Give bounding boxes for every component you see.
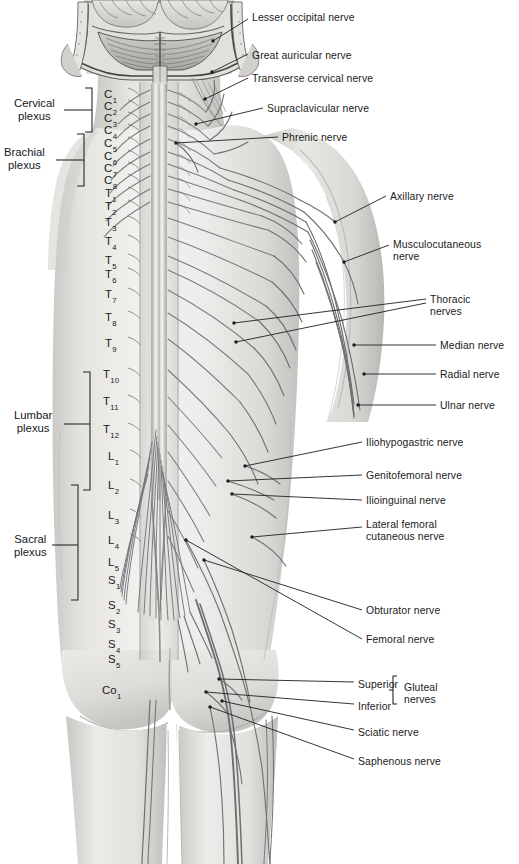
label-obturator: Obturator nerve [366,605,440,617]
phrenic-leader-dot [174,141,177,144]
label-iliohypogastric: Iliohypogastric nerve [366,437,463,449]
ulnar-leader-dot [356,403,359,406]
vertebra-label-S4: S4 [108,638,120,650]
label-radial: Radial nerve [440,369,500,381]
vertebra-label-L5: L5 [108,556,119,568]
vertebra-label-T11: T11 [103,395,118,407]
vertebra-label-S5: S5 [108,653,120,665]
axillary-leader-dot [333,220,336,223]
plexus-label-sacral: Sacral plexus [14,533,47,560]
label-sciatic: Sciatic nerve [358,727,419,739]
plexus-label-cervical: Cervical plexus [14,97,55,124]
obturator-leader-dot [202,558,205,561]
ilioinguinal-leader-dot [230,492,233,495]
spinal-nerve-figure: Lesser occipital nerveGreat auricular ne… [0,0,519,864]
vertebra-label-S3: S3 [108,618,120,630]
vertebra-label-L3: L3 [108,509,119,521]
label-musculocutaneous: Musculocutaneous nerve [393,239,481,263]
label-superior-gluteal-nerve: Superior [358,679,398,691]
lateral-femoral-leader-dot [250,535,253,538]
inferior-gluteal-leader-dot [204,690,207,693]
vertebra-label-T12: T12 [103,423,119,435]
vertebra-label-T5: T5 [105,254,116,266]
label-axillary: Axillary nerve [390,191,454,203]
label-thoracic: Thoracic nerves [430,294,471,318]
sciatic-leader-dot [220,699,223,702]
vertebra-label-T4: T4 [105,235,116,247]
supraclavicular-leader-dot [194,122,197,125]
saphenous-leader-dot [208,705,211,708]
musculocutaneous-leader-dot [342,260,345,263]
lesser-occipital-leader-dot [211,39,214,42]
label-lesser-occipital: Lesser occipital nerve [252,12,355,24]
anatomical-illustration [0,0,519,864]
vertebra-label-T9: T9 [105,337,116,349]
genitofemoral-leader-dot [226,479,229,482]
label-ilioinguinal: Ilioinguinal nerve [366,495,446,507]
thoracic-leader-a-dot [232,321,235,324]
vertebra-label-T2: T2 [105,200,116,212]
plexus-label-lumbar: Lumbar plexus [14,409,52,436]
transverse-cervical-leader-dot [203,97,206,100]
vertebra-label-T7: T7 [105,288,116,300]
median-leader-dot [352,343,355,346]
label-genitofemoral: Genitofemoral nerve [366,470,462,482]
label-supraclavicular: Supraclavicular nerve [267,103,369,115]
vertebra-label-L1: L1 [108,450,119,462]
vertebra-label-S2: S2 [108,599,120,611]
label-lateral-femoral-cutaneous: Lateral femoral cutaneous nerve [366,519,444,543]
vertebra-label-T8: T8 [105,311,116,323]
plexus-label-brachial: Brachial plexus [4,146,45,173]
label-median: Median nerve [440,340,504,352]
iliohypogastric-leader-dot [243,464,246,467]
radial-leader-dot [362,372,365,375]
vertebra-label-C3: C3 [104,112,117,124]
vertebra-label-C7: C7 [104,162,117,174]
vertebra-label-C1: C1 [104,88,117,100]
vertebra-label-T3: T3 [105,216,116,228]
label-inferior-gluteal-nerve: Inferior [358,701,391,713]
label-transverse-cervical: Transverse cervical nerve [252,73,373,85]
vertebra-label-C6: C6 [104,150,117,162]
vertebra-label-T1: T1 [105,187,116,199]
vertebra-label-L4: L4 [108,534,119,546]
femoral-leader-dot [184,538,187,541]
body-silhouette [48,0,384,864]
vertebra-label-C2: C2 [104,100,117,112]
vertebra-label-C5: C5 [104,137,117,149]
vertebra-label-T10: T10 [103,368,119,380]
label-great-auricular: Great auricular nerve [252,50,352,62]
vertebra-label-T6: T6 [105,268,116,280]
vertebra-label-S1: S1 [108,574,120,586]
label-phrenic: Phrenic nerve [282,132,347,144]
label-gluteal-nerves-group: Gluteal nerves [404,682,438,706]
great-auricular-leader-dot [210,70,213,73]
vertebra-label-C4: C4 [104,124,117,136]
label-ulnar: Ulnar nerve [440,400,495,412]
superior-gluteal-leader-dot [217,677,220,680]
vertebra-label-L2: L2 [108,479,119,491]
label-femoral: Femoral nerve [366,634,434,646]
vertebra-label-C8: C8 [104,174,117,186]
thoracic-leader-b-dot [234,340,237,343]
label-saphenous: Saphenous nerve [358,756,441,768]
vertebra-label-Co1: Co1 [102,684,121,696]
